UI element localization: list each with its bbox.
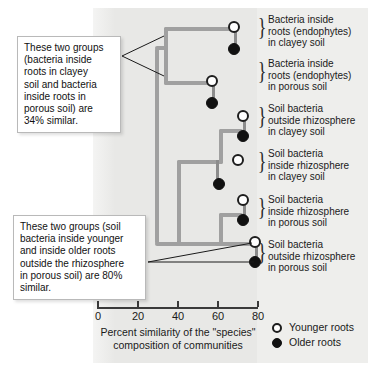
legend-label: Younger roots	[289, 321, 354, 333]
callout-line: bacteria inside younger	[20, 233, 139, 245]
x-axis-tick	[217, 301, 219, 307]
younger-roots-marker	[206, 75, 218, 87]
label-line: in clayey soil	[268, 37, 368, 49]
legend: Younger roots Older roots	[272, 320, 354, 350]
branch-soil-bacteria-vertical	[177, 160, 181, 246]
leaf-label-endophytes-clayey: Bacteria inside roots (endophytes) in cl…	[268, 14, 368, 49]
filled-circle-icon	[272, 338, 282, 348]
label-line: in clayey soil	[268, 126, 368, 138]
label-line: in clayey soil	[268, 171, 368, 183]
brace-inside-rhizosphere-porous: }	[258, 194, 267, 220]
callout-line: outside the rhizosphere	[20, 258, 139, 270]
brace-outside-rhizosphere-porous: }	[258, 239, 267, 265]
callout-lower: These two groups (soil bacteria inside y…	[13, 215, 146, 300]
label-line: in porous soil	[268, 262, 368, 274]
older-roots-marker	[237, 130, 249, 142]
younger-roots-marker	[237, 194, 249, 206]
branch-clayey-cluster-vertical	[219, 129, 223, 164]
callout-line: These two groups	[24, 42, 114, 54]
label-line: inside rhizosphere	[268, 206, 368, 218]
label-line: roots (endophytes)	[268, 26, 368, 38]
x-axis-tick	[97, 301, 99, 307]
younger-roots-marker	[228, 21, 240, 33]
callout-line: (bacteria inside	[24, 54, 114, 66]
callout-line: inside roots in	[24, 91, 114, 103]
older-roots-marker	[228, 43, 240, 55]
x-axis-tick	[177, 301, 179, 307]
callout-line: 34% similar.	[24, 115, 114, 127]
callout-upper: These two groups (bacteria inside roots …	[17, 36, 121, 133]
label-line: Soil bacteria	[268, 103, 368, 115]
label-line: outside rhizosphere	[268, 115, 368, 127]
callout-line: These two groups (soil	[20, 221, 139, 233]
leaf-label-outside-rhizosphere-clayey: Soil bacteria outside rhizosphere in cla…	[268, 103, 368, 138]
callout-line: soil and bacteria	[24, 79, 114, 91]
x-axis-line	[97, 307, 258, 309]
branch-endophytes-clayey	[164, 27, 234, 31]
x-axis-tick-label: 60	[203, 310, 233, 322]
x-axis-tick	[137, 301, 139, 307]
leaf-label-inside-rhizosphere-porous: Soil bacteria inside rhizosphere in poro…	[268, 194, 368, 229]
branch-endophytes-vertical	[164, 27, 168, 85]
branch-soil-to-porous-cluster	[177, 242, 223, 246]
callout-line: porous soil) are	[24, 103, 114, 115]
label-line: Soil bacteria	[268, 194, 368, 206]
x-axis-tick-label: 40	[163, 310, 193, 322]
brace-outside-rhizosphere-clayey: }	[258, 103, 267, 129]
branch-endophytes-porous	[164, 81, 212, 85]
x-axis-tick-label: 20	[123, 310, 153, 322]
dendrogram-figure: } Bacteria inside roots (endophytes) in …	[0, 0, 368, 371]
older-roots-marker	[237, 214, 249, 226]
label-line: inside rhizosphere	[268, 160, 368, 172]
callout-line: similar.	[20, 282, 139, 294]
callout-line: and inside older roots	[20, 245, 139, 257]
label-line: Soil bacteria	[268, 148, 368, 160]
label-line: Bacteria inside	[268, 14, 368, 26]
label-line: outside rhizosphere	[268, 251, 368, 263]
callout-line: roots in clayey	[24, 66, 114, 78]
x-axis-tick-label: 0	[83, 310, 113, 322]
callout-line: in porous soil) are 80%	[20, 270, 139, 282]
older-roots-marker	[206, 97, 218, 109]
x-axis-tick	[257, 301, 259, 307]
older-roots-marker	[213, 178, 225, 190]
brace-endophytes-porous: }	[258, 58, 267, 84]
brace-inside-rhizosphere-clayey: }	[258, 148, 267, 174]
label-line: roots (endophytes)	[268, 70, 368, 82]
brace-endophytes-clayey: }	[258, 14, 267, 40]
open-circle-icon	[272, 323, 282, 333]
legend-label: Older roots	[289, 336, 341, 348]
label-line: in porous soil	[268, 81, 368, 93]
legend-item-older-roots: Older roots	[272, 335, 354, 350]
label-line: Bacteria inside	[268, 58, 368, 70]
x-axis-label: Percent similarity of the "species" comp…	[78, 326, 278, 352]
leaf-label-endophytes-porous: Bacteria inside roots (endophytes) in po…	[268, 58, 368, 93]
younger-roots-marker	[237, 110, 249, 122]
leaf-label-outside-rhizosphere-porous: Soil bacteria outside rhizosphere in por…	[268, 239, 368, 274]
leaf-label-inside-rhizosphere-clayey: Soil bacteria inside rhizosphere in clay…	[268, 148, 368, 183]
x-axis-tick-label: 80	[243, 310, 273, 322]
younger-roots-marker	[232, 154, 244, 166]
label-line: Soil bacteria	[268, 239, 368, 251]
branch-root-vertical	[155, 48, 159, 244]
label-line: in porous soil	[268, 217, 368, 229]
legend-item-younger-roots: Younger roots	[272, 320, 354, 335]
